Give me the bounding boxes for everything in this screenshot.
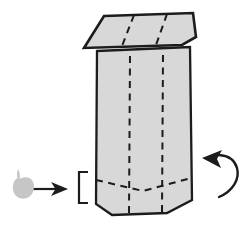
left-square-bracket-icon xyxy=(79,172,88,203)
diagram-svg xyxy=(0,0,241,233)
right-arrow-icon xyxy=(33,182,68,196)
roof-flap-outline xyxy=(84,13,196,48)
carton-body-outline xyxy=(96,47,192,215)
roof-flap xyxy=(84,13,196,48)
rotate-arrow-head xyxy=(202,150,222,168)
rotate-arrow-arc xyxy=(219,155,238,197)
curved-counterclockwise-arrow-icon xyxy=(202,150,238,197)
origami-step-diagram xyxy=(0,0,241,233)
paper-scrap-icon xyxy=(13,169,34,199)
carton-body xyxy=(96,47,192,215)
